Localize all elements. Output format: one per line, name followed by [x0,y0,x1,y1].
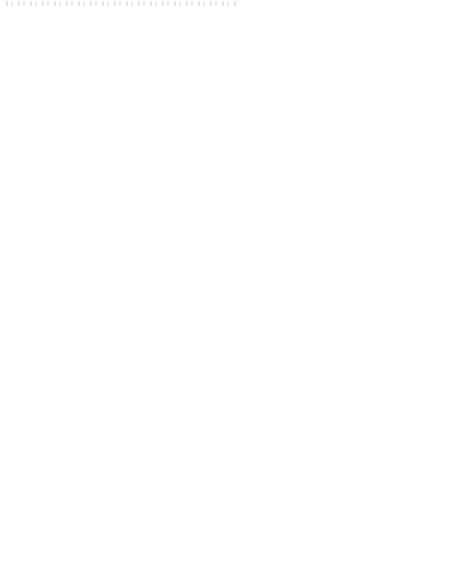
truncated-top-text [6,1,236,6]
multi-panel-chart [0,0,452,574]
figure-root [0,0,452,574]
